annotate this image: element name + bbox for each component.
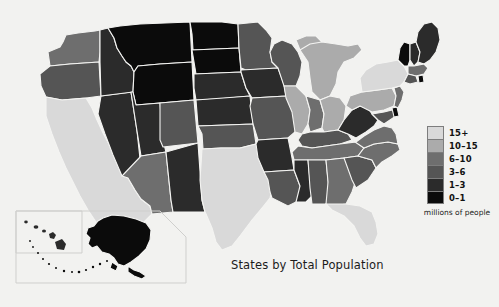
map-title: States by Total Population	[231, 258, 384, 272]
states-layer	[16, 22, 440, 283]
legend-swatch	[427, 178, 444, 191]
state-PA[interactable]	[346, 88, 396, 112]
state-WY[interactable]	[133, 62, 194, 105]
legend-item[interactable]: 0–1	[427, 191, 493, 204]
legend-label: 0–1	[449, 193, 466, 203]
legend-caption: millions of people	[421, 208, 493, 217]
state-KS[interactable]	[196, 96, 253, 126]
state-NE[interactable]	[194, 72, 250, 100]
legend-swatch	[427, 152, 444, 165]
state-MN[interactable]	[238, 22, 278, 70]
state-NM[interactable]	[166, 143, 205, 212]
state-HI[interactable]	[24, 221, 66, 250]
legend-swatch	[427, 165, 444, 178]
inset-frame-hawaii	[16, 211, 82, 253]
legend: 15+10–156–103–61–30–1 millions of people	[427, 126, 493, 217]
state-ND[interactable]	[190, 22, 239, 50]
legend-label: 15+	[449, 128, 469, 138]
legend-swatch	[427, 139, 444, 152]
state-VT[interactable]	[398, 42, 410, 66]
legend-item[interactable]: 6–10	[427, 152, 493, 165]
state-OK[interactable]	[198, 124, 256, 149]
legend-item[interactable]: 15+	[427, 126, 493, 139]
legend-label: 6–10	[449, 154, 472, 164]
state-RI[interactable]	[418, 75, 424, 83]
map-figure: States by Total Population 15+10–156–103…	[0, 0, 499, 307]
state-AR[interactable]	[256, 138, 294, 172]
legend-item[interactable]: 3–6	[427, 165, 493, 178]
legend-rows: 15+10–156–103–61–30–1	[427, 126, 493, 204]
legend-item[interactable]: 1–3	[427, 178, 493, 191]
state-AK[interactable]	[86, 215, 151, 279]
state-FL[interactable]	[326, 204, 378, 246]
state-WA[interactable]	[48, 30, 100, 66]
state-MI[interactable]	[296, 36, 362, 100]
legend-label: 1–3	[449, 180, 466, 190]
legend-swatch	[427, 191, 444, 204]
state-SD[interactable]	[192, 48, 241, 74]
state-ME[interactable]	[416, 22, 440, 64]
state-CO[interactable]	[160, 100, 198, 147]
legend-label: 3–6	[449, 167, 466, 177]
state-NJ[interactable]	[394, 86, 404, 108]
legend-label: 10–15	[449, 141, 478, 151]
state-OR[interactable]	[40, 62, 101, 100]
legend-item[interactable]: 10–15	[427, 139, 493, 152]
legend-swatch	[427, 126, 444, 139]
